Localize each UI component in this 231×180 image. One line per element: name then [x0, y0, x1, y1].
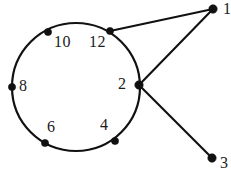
node-8[interactable] [8, 83, 15, 90]
diagram-canvas: 12 10 8 6 4 2 1 3 [0, 0, 231, 180]
node-label-1: 1 [223, 1, 231, 17]
node-10[interactable] [44, 28, 51, 35]
node-12[interactable] [106, 27, 113, 34]
node-1[interactable] [209, 5, 217, 13]
node-label-2: 2 [118, 76, 127, 92]
node-6[interactable] [41, 139, 48, 146]
node-label-10: 10 [54, 34, 71, 50]
graph-svg [0, 0, 231, 180]
node-3[interactable] [208, 154, 216, 162]
node-4[interactable] [111, 137, 118, 144]
node-label-4: 4 [100, 117, 109, 133]
node-2[interactable] [135, 81, 143, 89]
node-label-3: 3 [220, 155, 229, 171]
node-label-12: 12 [89, 34, 106, 50]
edge-2-to-3 [139, 85, 212, 158]
node-label-6: 6 [47, 119, 56, 135]
edge-12-to-1 [110, 9, 213, 31]
edge-2-to-1 [139, 9, 213, 85]
node-label-8: 8 [19, 78, 28, 94]
